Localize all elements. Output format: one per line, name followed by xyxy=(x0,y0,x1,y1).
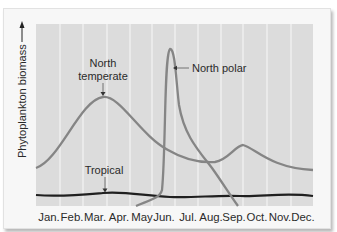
tick-mar: Mar. xyxy=(84,211,106,223)
tick-feb: Feb. xyxy=(61,211,84,223)
north-polar-label: North polar xyxy=(192,62,247,74)
x-axis-ticks: Jan. Feb. Mar. Apr. May Jun. Jul. Aug. S… xyxy=(38,211,314,223)
tropical-label: Tropical xyxy=(85,164,124,176)
tick-jun: Jun. xyxy=(153,211,175,223)
tick-nov: Nov. xyxy=(269,211,292,223)
tick-dec: Dec. xyxy=(291,211,314,223)
tick-may: May xyxy=(131,211,153,223)
tick-oct: Oct. xyxy=(247,211,268,223)
tick-apr: Apr. xyxy=(109,211,129,223)
tick-jan: Jan. xyxy=(38,211,60,223)
y-axis-arrow-icon xyxy=(20,21,25,28)
phytoplankton-chart: North temperate North polar Tropical Phy… xyxy=(0,0,337,232)
tick-sep: Sep. xyxy=(222,211,245,223)
tick-jul: Jul. xyxy=(179,211,197,223)
north-temperate-label-line2: temperate xyxy=(78,70,128,82)
north-temperate-label-line1: North xyxy=(90,57,117,69)
y-axis-label: Phytoplankton biomass xyxy=(16,44,28,158)
tick-aug: Aug. xyxy=(199,211,222,223)
